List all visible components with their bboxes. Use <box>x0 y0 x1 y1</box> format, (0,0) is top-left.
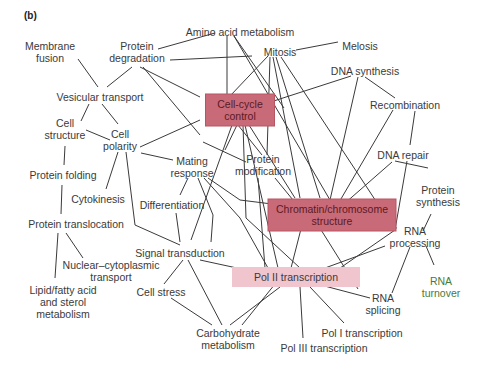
node-label-line: Protein <box>246 153 279 165</box>
node-diff: Differentiation <box>140 199 205 211</box>
edge-line <box>410 111 415 145</box>
node-label-line: Melosis <box>342 40 378 52</box>
node-label-line: Differentiation <box>140 199 205 211</box>
node-protmod: Proteinmodification <box>235 153 291 177</box>
node-protfold: Protein folding <box>29 169 96 181</box>
node-label-line: DNA repair <box>377 149 429 161</box>
node-recomb: Recombination <box>370 99 440 111</box>
node-label-line: polarity <box>103 140 138 152</box>
node-label-line: Membrane <box>25 40 75 52</box>
node-amino: Amino acid metabolism <box>186 26 295 38</box>
edge-line <box>180 178 188 195</box>
edge-line <box>296 42 338 50</box>
node-label-line: and sterol <box>40 296 86 308</box>
edge-line <box>230 287 280 325</box>
edge-line <box>344 162 392 204</box>
edge-line <box>55 233 58 278</box>
edge-line <box>61 185 62 214</box>
node-label-line: Cell-cycle <box>217 98 263 110</box>
node-melosis: Melosis <box>342 40 378 52</box>
node-prottrans: Protein translocation <box>28 218 124 230</box>
edge-line <box>245 125 278 268</box>
node-label-line: Protein <box>120 40 153 52</box>
edge-line <box>191 125 232 240</box>
edge-line <box>392 247 410 293</box>
node-carbo: Carbohydratemetabolism <box>196 327 260 351</box>
node-cellstruct: Cellstructure <box>45 117 86 141</box>
node-label-line: Cytokinesis <box>71 193 125 205</box>
edge-line <box>141 153 173 160</box>
edge-line <box>140 120 200 147</box>
node-label-line: Recombination <box>370 99 440 111</box>
node-label-line: Protein translocation <box>28 218 124 230</box>
node-label-line: Protein <box>421 184 454 196</box>
node-label-line: Amino acid metabolism <box>186 26 295 38</box>
node-label-line: transport <box>90 271 132 283</box>
node-label-line: DNA synthesis <box>331 65 399 77</box>
node-label-line: Cell <box>111 128 129 140</box>
node-label-line: splicing <box>365 304 400 316</box>
node-mating: Matingresponse <box>170 155 213 179</box>
edge-line <box>395 161 428 168</box>
edge-line <box>325 246 385 268</box>
node-label-line: Vesicular transport <box>57 91 144 103</box>
node-label-line: structure <box>45 129 86 141</box>
node-protsyn: Proteinsynthesis <box>416 184 460 208</box>
node-rnaturn: RNAturnover <box>422 275 461 299</box>
node-dnasyn: DNA synthesis <box>331 65 399 77</box>
node-label-line: metabolism <box>201 339 255 351</box>
edge-line <box>106 152 118 189</box>
node-label-line: synthesis <box>416 196 460 208</box>
node-vesicular: Vesicular transport <box>57 91 144 103</box>
edge-line <box>143 67 200 135</box>
node-lipid: Lipid/fatty acidand sterolmetabolism <box>29 284 96 320</box>
node-label-line: modification <box>235 165 291 177</box>
node-pol3: Pol III transcription <box>281 342 368 354</box>
node-cellstress: Cell stress <box>136 286 185 298</box>
node-protdeg: Proteindegradation <box>109 40 165 64</box>
node-label-line: turnover <box>422 287 461 299</box>
panel-label: (b) <box>24 10 37 21</box>
node-cytokin: Cytokinesis <box>71 193 125 205</box>
edge-line <box>81 104 89 121</box>
edge-line <box>171 298 212 325</box>
node-label-line: Lipid/fatty acid <box>29 284 96 296</box>
node-mitosis: Mitosis <box>264 46 297 58</box>
node-dnarep: DNA repair <box>377 149 429 161</box>
edge-line <box>176 213 180 242</box>
node-label-line: Pol II transcription <box>254 271 338 283</box>
node-label-line: Nuclear–cytoplasmic <box>63 259 160 271</box>
node-label-line: Chromatin/chromosome <box>276 203 388 215</box>
edge-line <box>188 260 222 325</box>
node-label-line: Pol III transcription <box>281 342 368 354</box>
edge-line <box>365 77 395 98</box>
edge-line <box>258 178 265 268</box>
node-label-line: RNA <box>430 275 452 287</box>
edge-line <box>243 125 300 268</box>
node-label-line: response <box>170 167 213 179</box>
node-pol2: Pol II transcription <box>254 271 338 283</box>
node-signal: Signal transduction <box>135 247 224 259</box>
edge-line <box>107 67 132 87</box>
node-rnasplice: RNAsplicing <box>365 292 400 316</box>
edge-line <box>140 67 200 97</box>
edge-line <box>164 260 183 284</box>
node-label-line: Protein folding <box>29 169 96 181</box>
node-label-line: fusion <box>36 52 64 64</box>
node-label-line: Carbohydrate <box>196 327 260 339</box>
node-label-line: metabolism <box>36 308 90 320</box>
node-pol1: Pol I transcription <box>321 327 402 339</box>
node-label-line: Signal transduction <box>135 247 224 259</box>
node-label-line: structure <box>312 215 353 227</box>
edge-line <box>66 233 83 258</box>
edge-line <box>102 104 118 124</box>
node-label-line: processing <box>390 237 441 249</box>
edge-line <box>64 146 65 165</box>
node-label-line: RNA <box>372 292 394 304</box>
node-label-line: Cell stress <box>136 286 185 298</box>
edge-line <box>78 59 98 87</box>
node-label-line: Mitosis <box>264 46 297 58</box>
node-cellpol: Cellpolarity <box>103 128 138 152</box>
node-label-line: Mating <box>176 155 208 167</box>
node-nuclear: Nuclear–cytoplasmictransport <box>63 259 160 283</box>
